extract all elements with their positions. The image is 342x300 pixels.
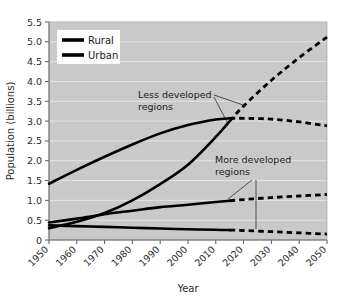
y-tick-label: 3.5 (27, 96, 42, 107)
y-axis-title: Population (billions) (5, 82, 16, 181)
chart-figure: 00.51.01.52.02.53.03.54.04.55.05.5 19501… (0, 0, 342, 300)
population-line-chart: 00.51.01.52.02.53.03.54.04.55.05.5 19501… (0, 0, 342, 300)
y-tick-label: 4.0 (27, 76, 42, 87)
legend-label-rural: Rural (88, 35, 114, 46)
annotation-less-developed-line1: Less developed (138, 89, 212, 100)
y-tick-label: 4.5 (27, 56, 42, 67)
y-tick-label: 2.5 (27, 135, 42, 146)
legend-label-urban: Urban (88, 50, 118, 61)
y-tick-label: 1.0 (27, 195, 42, 206)
annotation-less-developed-line2: regions (138, 101, 173, 112)
x-axis-title: Year (176, 283, 199, 294)
y-tick-label: 3.0 (27, 116, 42, 127)
y-tick-label: 0.5 (27, 215, 42, 226)
annotation-more-developed-line2: regions (215, 166, 250, 177)
y-tick-label: 5.5 (27, 17, 42, 28)
y-tick-label: 1.5 (27, 175, 42, 186)
y-tick-label: 5.0 (27, 36, 42, 47)
legend: Rural Urban (57, 30, 120, 64)
annotation-more-developed-line1: More developed (215, 154, 291, 165)
y-tick-label: 2.0 (27, 155, 42, 166)
